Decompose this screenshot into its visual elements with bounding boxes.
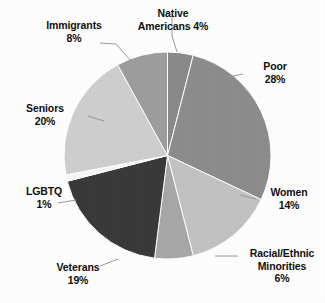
- pie-label-racial-minorities: Racial/Ethnic Minorities 6%: [240, 247, 324, 285]
- pie-label-seniors-name: Seniors: [4, 102, 86, 115]
- pie-label-immigrants: Immigrants 8%: [28, 19, 120, 44]
- pie-label-women-name: Women: [258, 186, 320, 199]
- pie-label-women-value: 14%: [258, 199, 320, 212]
- pie-label-native-americans: Native Americans 4%: [116, 7, 230, 32]
- pie-label-racial-minorities-value: 6%: [240, 272, 324, 285]
- pie-label-lgbtq: LGBTQ 1%: [6, 185, 82, 210]
- pie-label-seniors-value: 20%: [4, 115, 86, 128]
- pie-label-racial-minorities-line2: Minorities: [240, 260, 324, 273]
- pie-label-lgbtq-value: 1%: [6, 198, 82, 211]
- pie-label-poor: Poor 28%: [245, 60, 305, 85]
- pie-label-immigrants-name: Immigrants: [28, 19, 120, 32]
- pie-label-veterans: Veterans 19%: [34, 261, 122, 286]
- pie-label-poor-name: Poor: [245, 60, 305, 73]
- pie-label-veterans-value: 19%: [34, 274, 122, 287]
- pie-label-lgbtq-name: LGBTQ: [6, 185, 82, 198]
- pie-label-women: Women 14%: [258, 186, 320, 211]
- pie-label-immigrants-value: 8%: [28, 32, 120, 45]
- pie-label-native-americans-line2: Americans 4%: [116, 20, 230, 33]
- pie-label-native-americans-line1: Native: [116, 7, 230, 20]
- pie-chart: Native Americans 4% Immigrants 8% Poor 2…: [0, 0, 325, 303]
- pie-label-racial-minorities-line1: Racial/Ethnic: [240, 247, 324, 260]
- pie-label-veterans-name: Veterans: [34, 261, 122, 274]
- pie-label-seniors: Seniors 20%: [4, 102, 86, 127]
- pie-label-poor-value: 28%: [245, 73, 305, 86]
- leader-line-immigrants: [100, 43, 132, 62]
- pie-slice-group: [64, 52, 271, 259]
